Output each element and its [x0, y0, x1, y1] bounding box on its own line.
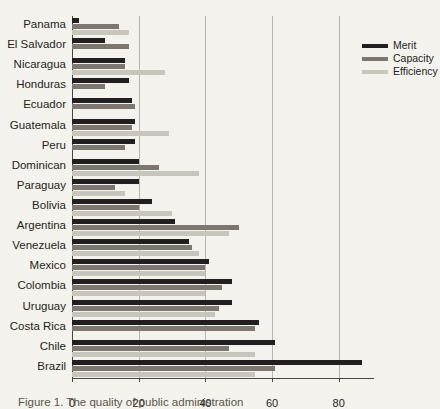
- y-axis-label: Panama: [0, 18, 66, 30]
- bar-merit: [72, 58, 125, 63]
- y-axis-label: Nicaragua: [0, 58, 66, 70]
- bar-efficiency: [72, 70, 165, 75]
- bar-capacity: [72, 165, 159, 170]
- bar-merit: [72, 300, 232, 305]
- bar-efficiency: [72, 291, 205, 296]
- bar-efficiency: [72, 271, 205, 276]
- bar-capacity: [72, 306, 219, 311]
- bar-capacity: [72, 346, 229, 351]
- bar-merit: [72, 98, 132, 103]
- bar-efficiency: [72, 352, 255, 357]
- bar-efficiency: [72, 131, 169, 136]
- bar-merit: [72, 139, 135, 144]
- bar-capacity: [72, 125, 132, 130]
- y-axis-label: Dominican: [0, 159, 66, 171]
- bar-merit: [72, 199, 152, 204]
- y-axis-label: Peru: [0, 139, 66, 151]
- bar-capacity: [72, 24, 119, 29]
- legend-swatch-icon: [362, 70, 388, 74]
- y-axis-label: Guatemala: [0, 119, 66, 131]
- x-tick-mark: [72, 378, 73, 382]
- bar-merit: [72, 119, 135, 124]
- figure-caption: Figure 1. The quality of public administ…: [18, 396, 243, 408]
- legend-swatch-icon: [362, 57, 388, 61]
- y-axis-label: Colombia: [0, 279, 66, 291]
- y-axis-label: Argentina: [0, 219, 66, 231]
- bar-merit: [72, 18, 79, 23]
- chart-legend: MeritCapacityEfficiency: [362, 40, 438, 79]
- x-tick-mark: [139, 378, 140, 382]
- y-axis-label: Costa Rica: [0, 320, 66, 332]
- y-axis-label: Mexico: [0, 259, 66, 271]
- bar-merit: [72, 159, 139, 164]
- bar-merit: [72, 78, 129, 83]
- bar-capacity: [72, 265, 205, 270]
- bar-capacity: [72, 145, 125, 150]
- bar-merit: [72, 340, 275, 345]
- y-axis-label: Ecuador: [0, 98, 66, 110]
- bar-efficiency: [72, 30, 129, 35]
- bar-capacity: [72, 64, 125, 69]
- legend-item: Capacity: [362, 53, 438, 64]
- bar-capacity: [72, 84, 105, 89]
- bar-capacity: [72, 245, 192, 250]
- y-axis-label: Uruguay: [0, 300, 66, 312]
- legend-label: Merit: [393, 39, 416, 51]
- bar-merit: [72, 259, 209, 264]
- bar-merit: [72, 179, 139, 184]
- y-axis-label: Honduras: [0, 78, 66, 90]
- y-axis-label: Venezuela: [0, 239, 66, 251]
- x-axis-line: [72, 378, 374, 379]
- x-tick-label: 80: [333, 397, 345, 409]
- x-tick-mark: [205, 378, 206, 382]
- bar-capacity: [72, 225, 239, 230]
- x-tick-mark: [339, 378, 340, 382]
- x-tick-label: 60: [266, 397, 278, 409]
- bar-merit: [72, 279, 232, 284]
- legend-label: Efficiency: [393, 65, 438, 77]
- bar-capacity: [72, 185, 115, 190]
- legend-item: Merit: [362, 40, 438, 51]
- bar-capacity: [72, 285, 222, 290]
- bar-merit: [72, 320, 259, 325]
- bar-group: [72, 359, 372, 383]
- bar-capacity: [72, 104, 135, 109]
- bar-merit: [72, 219, 175, 224]
- bar-efficiency: [72, 231, 229, 236]
- bar-merit: [72, 38, 105, 43]
- legend-swatch-icon: [362, 44, 388, 48]
- legend-label: Capacity: [393, 52, 434, 64]
- bar-efficiency: [72, 372, 255, 377]
- bar-efficiency: [72, 171, 199, 176]
- y-axis-label: El Salvador: [0, 38, 66, 50]
- legend-item: Efficiency: [362, 66, 438, 77]
- y-axis-label: Paraguay: [0, 179, 66, 191]
- bar-efficiency: [72, 251, 199, 256]
- x-tick-mark: [272, 378, 273, 382]
- bar-efficiency: [72, 191, 125, 196]
- y-axis-label: Bolivia: [0, 199, 66, 211]
- y-axis-label: Chile: [0, 340, 66, 352]
- bar-efficiency: [72, 211, 172, 216]
- bar-merit: [72, 360, 362, 365]
- bar-merit: [72, 239, 189, 244]
- bar-capacity: [72, 326, 255, 331]
- bar-capacity: [72, 205, 139, 210]
- bar-efficiency: [72, 312, 215, 317]
- bar-capacity: [72, 366, 275, 371]
- bar-capacity: [72, 44, 129, 49]
- plot-area: 020406080: [72, 16, 372, 378]
- y-axis-label: Brazil: [0, 360, 66, 372]
